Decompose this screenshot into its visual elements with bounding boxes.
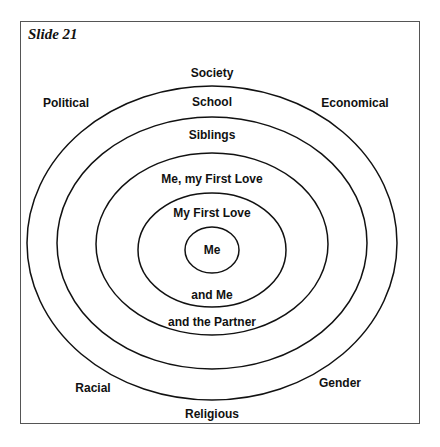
label-economical: Economical [321, 96, 388, 110]
label-racial: Racial [75, 381, 110, 395]
label-religious: Religious [185, 407, 239, 421]
label-siblings: Siblings [189, 128, 236, 142]
label-and-the-partner: and the Partner [168, 315, 256, 329]
label-society: Society [191, 66, 234, 80]
label-and-me: and Me [191, 288, 232, 302]
label-political: Political [43, 96, 89, 110]
label-me: Me [204, 243, 221, 257]
label-school: School [192, 95, 232, 109]
label-my-first-love: My First Love [173, 206, 250, 220]
label-me-first-love: Me, my First Love [161, 172, 262, 186]
label-gender: Gender [319, 376, 361, 390]
